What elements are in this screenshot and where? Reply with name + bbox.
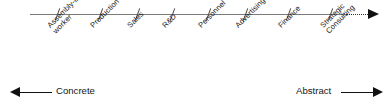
concrete-abstract-scale: Concrete Abstract bbox=[0, 84, 390, 102]
scale-label-abstract: Abstract bbox=[296, 85, 331, 96]
scale-line-right bbox=[341, 92, 374, 93]
category-label-line1: Sales bbox=[125, 10, 145, 30]
scale-label-concrete: Concrete bbox=[56, 85, 95, 96]
axis-arrow-right-icon bbox=[368, 9, 379, 19]
continuum-figure: Assembly-line worker Production Sales R&… bbox=[0, 0, 390, 102]
category-label-finance: Finance bbox=[277, 4, 303, 30]
scale-line-left bbox=[19, 92, 52, 93]
category-label-assembly-line-worker: Assembly-line worker bbox=[46, 0, 92, 36]
category-label-strategic-consulting: Strategic Consulting bbox=[319, 0, 357, 36]
category-label-rd: R&D bbox=[161, 12, 179, 30]
arrow-right-icon bbox=[373, 87, 383, 97]
